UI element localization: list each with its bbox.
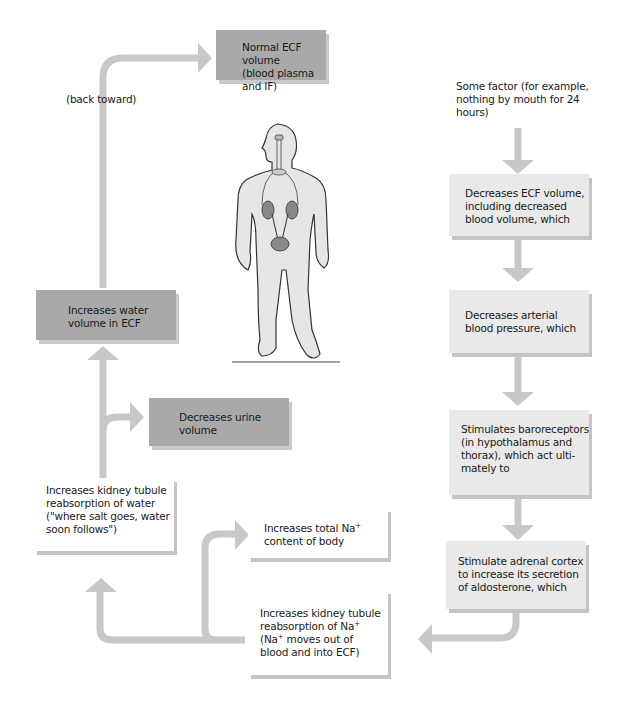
- hypothalamus-icon: [275, 135, 283, 140]
- text-line: Increases water: [68, 304, 176, 317]
- bladder-icon: [271, 237, 289, 251]
- text-line: blood volume, which: [465, 213, 589, 226]
- text-line: volume: [179, 424, 289, 437]
- text-line: reabsorption of water: [46, 497, 174, 510]
- arrowhead-right-10: [198, 43, 212, 73]
- text-fragment: reabsorption of Na: [260, 620, 354, 632]
- text-line: hours): [456, 106, 589, 119]
- text-line: soon follows"): [46, 523, 174, 536]
- text-fragment: Increases total Na: [264, 522, 355, 534]
- text-line: Increases total Na+: [264, 522, 388, 535]
- arrowhead-right-9: [130, 402, 144, 432]
- node-some-factor: Some factor (for example, nothing by mou…: [456, 80, 589, 119]
- text-line: mately to: [461, 462, 589, 475]
- back-toward-label: (back toward): [66, 93, 136, 106]
- node-normal-ecf-volume: Normal ECF volume (blood plasma and IF): [216, 30, 326, 80]
- text-line: Decreases urine: [179, 411, 289, 424]
- text-line: blood and into ECF): [260, 646, 388, 659]
- node-increases-water-reabsorption: Increases kidney tubule reabsorption of …: [34, 478, 174, 551]
- text-line: Decreases arterial: [465, 309, 589, 322]
- arrow-shaft-7: [205, 534, 235, 640]
- node-decreases-arterial-bp: Decreases arterial blood pressure, which: [449, 290, 589, 353]
- arrow-shaft-9: [103, 417, 130, 430]
- text-line: Some factor (for example,: [456, 80, 589, 93]
- arrowhead-down-2: [502, 268, 534, 282]
- text-line: blood pressure, which: [465, 322, 589, 335]
- text-line: Decreases ECF volume,: [465, 187, 589, 200]
- node-increases-water-volume: Increases water volume in ECF: [36, 290, 176, 340]
- node-stimulates-baroreceptors: Stimulates baroreceptors (in hypothalamu…: [449, 410, 589, 495]
- text-line: Stimulates baroreceptors: [461, 423, 589, 436]
- text-line: Increases kidney tubule: [46, 484, 174, 497]
- superscript: +: [354, 620, 360, 628]
- text-fragment: moves out of: [283, 633, 353, 645]
- arrowhead-left-5: [418, 624, 432, 654]
- node-decreases-ecf-volume: Decreases ECF volume, including decrease…: [449, 174, 589, 236]
- arrow-shaft-5: [432, 610, 516, 638]
- text-line: ("where salt goes, water: [46, 510, 174, 523]
- arrowhead-right-7: [235, 520, 249, 550]
- superscript: +: [355, 522, 361, 530]
- text-line: to increase its secretion: [458, 568, 586, 581]
- node-decreases-urine-volume: Decreases urine volume: [149, 398, 289, 446]
- text-line: (Na+ moves out of: [260, 633, 388, 646]
- text-line: thorax), which act ulti-: [461, 449, 589, 462]
- arrowhead-down-3: [502, 392, 534, 406]
- node-increases-total-na: Increases total Na+ content of body: [248, 508, 388, 558]
- text-line: content of body: [264, 535, 388, 548]
- arrowhead-up-8: [87, 346, 119, 360]
- text-line: reabsorption of Na+: [260, 620, 388, 633]
- arrowhead-down-1: [502, 160, 534, 174]
- text-line: Normal ECF volume: [242, 41, 326, 67]
- arrowhead-down-4: [502, 525, 534, 540]
- text-line: Stimulate adrenal cortex: [458, 555, 586, 568]
- node-stimulate-adrenal-cortex: Stimulate adrenal cortex to increase its…: [446, 541, 586, 609]
- node-increases-na-reabsorption: Increases kidney tubule reabsorption of …: [248, 590, 388, 675]
- arrow-shaft-6: [100, 592, 245, 640]
- text-line: including decreased: [465, 200, 589, 213]
- human-body-illustration: [232, 124, 340, 362]
- text-line: (blood plasma and IF): [242, 67, 326, 93]
- text-line: (in hypothalamus and: [461, 436, 589, 449]
- text-fragment: (Na: [260, 633, 278, 645]
- text-line: of aldosterone, which: [458, 581, 586, 594]
- heart-icon: [272, 169, 286, 175]
- text-line: nothing by mouth for 24: [456, 93, 589, 106]
- text-line: Increases kidney tubule: [260, 607, 388, 620]
- arrowhead-up-6: [85, 578, 117, 592]
- aldosterone-feedback-diagram: Normal ECF volume (blood plasma and IF) …: [0, 0, 624, 704]
- text-line: volume in ECF: [68, 317, 176, 330]
